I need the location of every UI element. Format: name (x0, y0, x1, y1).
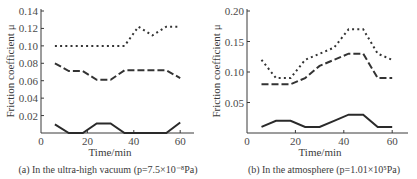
y-tick-label: 0.06 (19, 75, 39, 87)
y-tick-label: 0.08 (19, 57, 39, 69)
x-axis-label: Time/min (89, 146, 132, 158)
chart-panel-b: 0.050.100.150.200204060Time/minFriction … (210, 5, 408, 176)
series-line-dotted (262, 29, 393, 78)
series-line-dashed (262, 54, 393, 84)
y-tick-label: 0.05 (225, 97, 245, 109)
panel-caption: (a) In the ultra-high vacuum (p=7.5×10⁻⁸… (18, 164, 197, 176)
x-tick-label: 60 (175, 135, 187, 147)
x-tick-label: 0 (38, 135, 44, 147)
y-tick-label: 0.02 (19, 110, 38, 122)
x-axis-label: Time/min (299, 146, 342, 158)
axes (247, 9, 408, 133)
y-tick-label: 0.15 (225, 36, 245, 48)
x-tick-label: 0 (244, 135, 250, 147)
y-tick-label: 0.04 (19, 92, 39, 104)
y-axis-label: Friction coefficient μ (4, 24, 16, 117)
chart-panel-a: 0.020.040.060.080.100.120.140204060Time/… (4, 5, 198, 176)
x-tick-label: 60 (387, 135, 399, 147)
friction-coefficient-charts: 0.020.040.060.080.100.120.140204060Time/… (0, 0, 417, 179)
series-line-dashed (55, 63, 180, 80)
y-tick-label: 0.14 (19, 5, 39, 17)
series-line-solid (262, 115, 393, 127)
series-line-dotted (55, 27, 180, 46)
y-axis-label: Friction coefficient μ (210, 24, 222, 117)
y-tick-label: 0.12 (19, 22, 38, 34)
y-tick-label: 0.20 (225, 5, 245, 17)
y-tick-label: 0.10 (19, 40, 39, 52)
panel-caption: (b) In the atmosphere (p=1.01×10⁵Pa) (248, 164, 400, 176)
series-line-solid (55, 123, 180, 134)
y-tick-label: 0.10 (225, 66, 245, 78)
